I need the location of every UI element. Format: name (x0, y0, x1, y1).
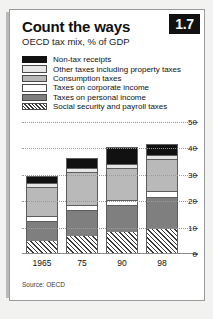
chart-legend: Non-tax receiptsOther taxes including pr… (22, 55, 198, 111)
gridline-30 (22, 175, 198, 176)
legend-item: Social security and payroll taxes (22, 102, 198, 111)
y-axis-tick-label: 50 (174, 118, 198, 127)
bar-segment-personal[interactable] (26, 221, 58, 241)
chart-subtitle: OECD tax mix, % of GDP (22, 36, 130, 47)
plot-inner: 01020304050 (22, 122, 172, 254)
legend-label: Other taxes including property taxes (53, 65, 181, 74)
page-background: 1.7 Count the ways OECD tax mix, % of GD… (0, 0, 213, 319)
legend-label: Consumption taxes (53, 74, 121, 83)
chart-card: 1.7 Count the ways OECD tax mix, % of GD… (9, 9, 205, 301)
legend-label: Taxes on personal income (53, 93, 146, 102)
figure-number-badge: 1.7 (169, 14, 200, 34)
gridline-40 (22, 148, 198, 149)
legend-item: Taxes on corporate income (22, 83, 198, 92)
legend-label: Taxes on corporate income (53, 83, 149, 92)
x-axis-line (22, 253, 198, 254)
bar-segment-social[interactable] (106, 232, 138, 254)
x-axis-label-98: 98 (142, 258, 182, 268)
x-axis-label-90: 90 (102, 258, 142, 268)
chart-title: Count the ways (22, 18, 130, 35)
bar-segment-nontax[interactable] (26, 176, 58, 183)
legend-swatch-personal (22, 94, 47, 101)
bar-1965[interactable] (26, 176, 58, 254)
plot-area: 01020304050 1965759098 (22, 122, 198, 268)
x-axis-label-75: 75 (62, 258, 102, 268)
legend-swatch-other (22, 65, 47, 72)
bar-segment-personal[interactable] (66, 210, 98, 235)
legend-swatch-social (22, 103, 47, 110)
legend-item: Consumption taxes (22, 74, 198, 83)
legend-swatch-corporate (22, 84, 47, 91)
legend-item: Non-tax receipts (22, 55, 198, 64)
bar-segment-social[interactable] (66, 236, 98, 254)
gridline-10 (22, 228, 198, 229)
bar-segment-nontax[interactable] (106, 147, 138, 164)
bar-segment-nontax[interactable] (66, 158, 98, 169)
y-axis-tick-label: 10 (174, 223, 198, 232)
x-axis-label-1965: 1965 (22, 258, 62, 268)
source-note: Source: OECD (22, 281, 65, 288)
bar-segment-consumption[interactable] (106, 168, 138, 200)
legend-swatch-consumption (22, 75, 47, 82)
y-axis-tick-label: 40 (174, 144, 198, 153)
legend-item: Taxes on personal income (22, 93, 198, 102)
gridline-50 (22, 122, 198, 123)
gridline-20 (22, 201, 198, 202)
bar-group (22, 122, 172, 254)
legend-swatch-nontax (22, 56, 47, 63)
legend-label: Non-tax receipts (53, 55, 111, 64)
legend-item: Other taxes including property taxes (22, 64, 198, 73)
bar-75[interactable] (66, 158, 98, 254)
y-axis-tick-label: 20 (174, 197, 198, 206)
y-axis-tick-label: 30 (174, 170, 198, 179)
legend-label: Social security and payroll taxes (53, 102, 167, 111)
